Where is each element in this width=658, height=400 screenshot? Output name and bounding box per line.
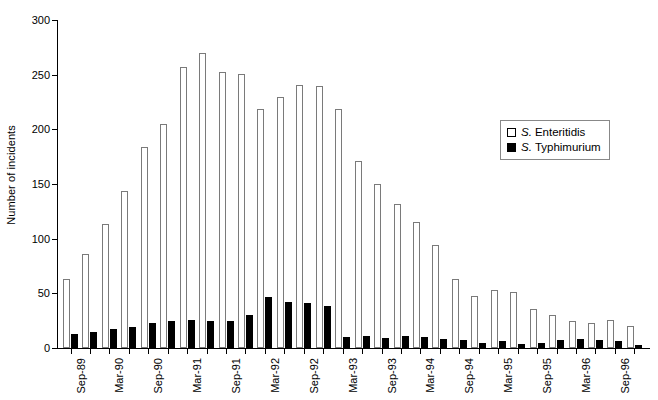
bar-typhimurium: [168, 321, 175, 348]
x-tick-mark: [148, 349, 149, 354]
bar-enteritidis: [413, 222, 420, 348]
x-tick-mark: [71, 349, 72, 354]
bar-group: [277, 20, 292, 348]
x-tick-mark: [401, 349, 402, 354]
bar-enteritidis: [121, 191, 128, 348]
x-tick-mark: [634, 349, 635, 354]
bar-typhimurium: [343, 337, 350, 348]
bar-enteritidis: [355, 161, 362, 348]
y-tick-mark: [52, 348, 57, 349]
x-tick-label: Sep-89: [75, 358, 87, 393]
x-tick-label: Sep-93: [386, 358, 398, 393]
open-square-swatch: [507, 128, 516, 137]
bar-enteritidis: [510, 292, 517, 348]
bar-typhimurium: [285, 302, 292, 348]
y-tick-label: 100: [32, 233, 50, 245]
x-tick-label: Sep-96: [619, 358, 631, 393]
bar-typhimurium: [149, 323, 156, 348]
bar-group: [316, 20, 331, 348]
bar-enteritidis: [607, 320, 614, 348]
bar-typhimurium: [90, 332, 97, 348]
y-tick-mark: [52, 184, 57, 185]
x-tick-mark: [615, 349, 616, 354]
x-tick-mark: [576, 349, 577, 354]
bar-enteritidis: [180, 67, 187, 348]
bar-enteritidis: [432, 245, 439, 348]
x-tick-label: Sep-90: [152, 358, 164, 393]
bar-typhimurium: [479, 343, 486, 348]
bar-enteritidis: [82, 254, 89, 348]
bar-typhimurium: [538, 343, 545, 348]
bar-group: [394, 20, 409, 348]
bar-typhimurium: [246, 315, 253, 348]
bar-typhimurium: [382, 338, 389, 348]
bar-typhimurium: [227, 321, 234, 348]
bar-group: [160, 20, 175, 348]
x-tick-mark: [498, 349, 499, 354]
bar-enteritidis: [219, 72, 226, 348]
x-tick-mark: [382, 349, 383, 354]
bar-enteritidis: [257, 109, 264, 348]
bar-group: [82, 20, 97, 348]
bar-typhimurium: [518, 344, 525, 348]
x-tick-mark: [323, 349, 324, 354]
y-axis-line: [57, 20, 58, 349]
bar-group: [627, 20, 642, 348]
bar-enteritidis: [199, 53, 206, 348]
legend-genus-label: S.: [521, 125, 532, 140]
bar-group: [335, 20, 350, 348]
legend-species-label: Enteritidis: [535, 125, 586, 140]
x-tick-mark: [557, 349, 558, 354]
bar-group: [180, 20, 195, 348]
y-tick-label: 300: [32, 14, 50, 26]
bar-enteritidis: [102, 224, 109, 348]
y-tick-mark: [52, 293, 57, 294]
bar-group: [374, 20, 389, 348]
y-tick-mark: [52, 75, 57, 76]
y-tick-label: 50: [38, 287, 50, 299]
x-tick-label: Mar-92: [269, 358, 281, 393]
y-tick-mark: [52, 239, 57, 240]
x-tick-mark: [479, 349, 480, 354]
y-tick-label: 250: [32, 69, 50, 81]
x-tick-mark: [304, 349, 305, 354]
bar-enteritidis: [238, 74, 245, 348]
bar-typhimurium: [363, 336, 370, 348]
bar-enteritidis: [335, 109, 342, 348]
x-tick-mark: [226, 349, 227, 354]
bar-group: [355, 20, 370, 348]
bar-group: [238, 20, 253, 348]
legend-item-typhimurium: S. Typhimurium: [507, 140, 601, 155]
bar-enteritidis: [530, 309, 537, 348]
bar-typhimurium: [304, 303, 311, 348]
bar-typhimurium: [460, 340, 467, 348]
bar-enteritidis: [588, 323, 595, 348]
bar-enteritidis: [141, 147, 148, 348]
bar-enteritidis: [316, 86, 323, 348]
bar-group: [257, 20, 272, 348]
bar-enteritidis: [471, 296, 478, 348]
x-tick-label: Mar-93: [347, 358, 359, 393]
x-tick-mark: [265, 349, 266, 354]
bar-group: [530, 20, 545, 348]
x-tick-mark: [168, 349, 169, 354]
bar-group: [199, 20, 214, 348]
x-tick-label: Mar-95: [502, 358, 514, 393]
bar-enteritidis: [452, 279, 459, 348]
y-axis-title: Number of incidents: [0, 0, 22, 350]
x-tick-mark: [595, 349, 596, 354]
bar-typhimurium: [402, 336, 409, 348]
bar-enteritidis: [374, 184, 381, 348]
x-tick-mark: [459, 349, 460, 354]
y-tick-label: 150: [32, 178, 50, 190]
bar-group: [432, 20, 447, 348]
y-axis-title-text: Number of incidents: [5, 125, 17, 225]
bar-group: [569, 20, 584, 348]
bar-enteritidis: [394, 204, 401, 348]
x-tick-label: Mar-94: [424, 358, 436, 393]
x-tick-mark: [420, 349, 421, 354]
x-tick-mark: [284, 349, 285, 354]
legend-species-label: Typhimurium: [535, 140, 601, 155]
bar-group: [471, 20, 486, 348]
x-axis-line: [57, 348, 650, 349]
